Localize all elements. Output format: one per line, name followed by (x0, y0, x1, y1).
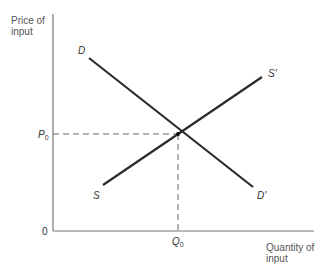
demand-end-label: D' (257, 190, 266, 201)
equilibrium-point (176, 132, 180, 136)
demand-start-label: D (78, 45, 85, 56)
equilibrium-quantity-label: Q0 (172, 236, 184, 250)
supply-start-label: S (93, 190, 100, 201)
supply-curve (103, 77, 262, 185)
diagram-canvas (0, 0, 330, 276)
origin-label: 0 (42, 226, 48, 237)
supply-end-label: S' (268, 68, 277, 79)
equilibrium-price-label: P0 (38, 129, 49, 143)
y-axis-label: Price of input (11, 15, 45, 37)
demand-curve (89, 58, 253, 187)
supply-demand-diagram: Price of input Quantity of input 0 P0 Q0… (0, 0, 330, 276)
x-axis-label: Quantity of input (266, 242, 314, 264)
